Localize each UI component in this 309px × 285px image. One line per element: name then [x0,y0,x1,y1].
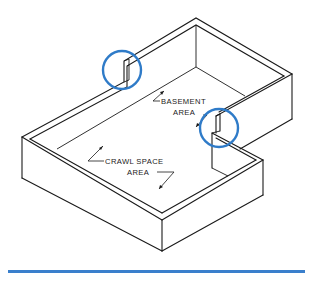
crawl-space-label: CRAWL SPACE AREA [88,146,174,189]
basement-label-line2: AREA [173,108,196,117]
basement-label-line1: BASEMENT [161,97,206,106]
divider-rule [8,270,305,273]
foundation-walls [22,18,292,251]
crawl-label-line2: AREA [127,168,150,177]
foundation-diagram: BASEMENT AREA CRAWL SPACE AREA [0,0,309,285]
basement-label: BASEMENT AREA [153,91,207,127]
crawl-label-line1: CRAWL SPACE [105,157,164,166]
